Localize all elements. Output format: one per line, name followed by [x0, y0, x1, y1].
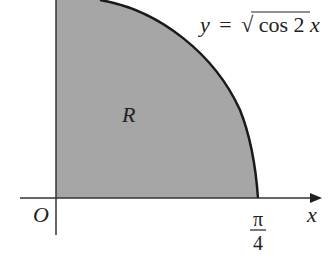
origin-label: O: [33, 202, 49, 227]
svg-text:y = √ cos 2 x: y = √ cos 2 x: [198, 12, 320, 37]
tick-pi-numerator: π: [253, 208, 263, 230]
curve-label-equals: =: [219, 12, 231, 37]
curve-label-cos: cos 2: [259, 12, 305, 37]
curve-label-x: x: [309, 12, 320, 37]
curve-label-y: y: [198, 12, 210, 37]
x-axis-label: x: [306, 202, 317, 227]
sqrt-symbol: √: [241, 12, 254, 37]
tick-pi-denominator: 4: [253, 232, 263, 254]
region-label: R: [121, 102, 136, 127]
graph-canvas: y = √ cos 2 x R O x π 4: [0, 0, 335, 266]
